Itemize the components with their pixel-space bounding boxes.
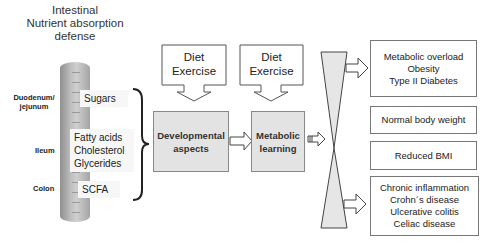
callout-diet-exercise-2: Diet Exercise bbox=[240, 50, 303, 78]
stage-text-line: aspects bbox=[154, 142, 228, 155]
brace-icon bbox=[133, 89, 149, 200]
stage-text-line: Metabolic bbox=[252, 129, 304, 142]
arrow-right-icon bbox=[230, 132, 252, 150]
outcome-text-line: Metabolic overload bbox=[371, 51, 476, 63]
outcome-chronic-inflammation: Chronic inflammation Crohn´s disease Ulc… bbox=[370, 176, 479, 236]
outcome-text-line: Celiac disease bbox=[371, 218, 478, 230]
outcome-text-line: Crohn´s disease bbox=[371, 194, 478, 206]
callout-text-line: Exercise bbox=[162, 64, 226, 78]
stage-text-line: learning bbox=[252, 142, 304, 155]
outcome-text-line: Reduced BMI bbox=[371, 150, 476, 162]
stage-metabolic-learning: Metabolic learning bbox=[251, 111, 305, 172]
outcome-text-line: Normal body weight bbox=[371, 114, 476, 126]
outcome-text-line: Chronic inflammation bbox=[371, 182, 478, 194]
arrow-right-icon bbox=[344, 194, 366, 214]
callout-diet-exercise-1: Diet Exercise bbox=[162, 50, 226, 78]
stage-developmental-aspects: Developmental aspects bbox=[153, 111, 229, 172]
outcome-metabolic-overload: Metabolic overload Obesity Type II Diabe… bbox=[370, 40, 477, 97]
stage-text-line: Developmental bbox=[154, 129, 228, 142]
hourglass-shape bbox=[321, 148, 347, 228]
outcome-reduced-bmi: Reduced BMI bbox=[370, 141, 477, 170]
callout-text-line: Diet bbox=[162, 50, 226, 64]
arrow-right-icon bbox=[346, 58, 368, 78]
hourglass-shape bbox=[321, 52, 347, 148]
outcome-text-line: Type II Diabetes bbox=[371, 75, 476, 87]
arrow-right-icon bbox=[308, 132, 325, 146]
outcome-text-line: Obesity bbox=[371, 63, 476, 75]
outcome-normal-body-weight: Normal body weight bbox=[370, 106, 477, 134]
callout-text-line: Exercise bbox=[240, 64, 303, 78]
outcome-text-line: Ulcerative colitis bbox=[371, 206, 478, 218]
callout-text-line: Diet bbox=[240, 50, 303, 64]
